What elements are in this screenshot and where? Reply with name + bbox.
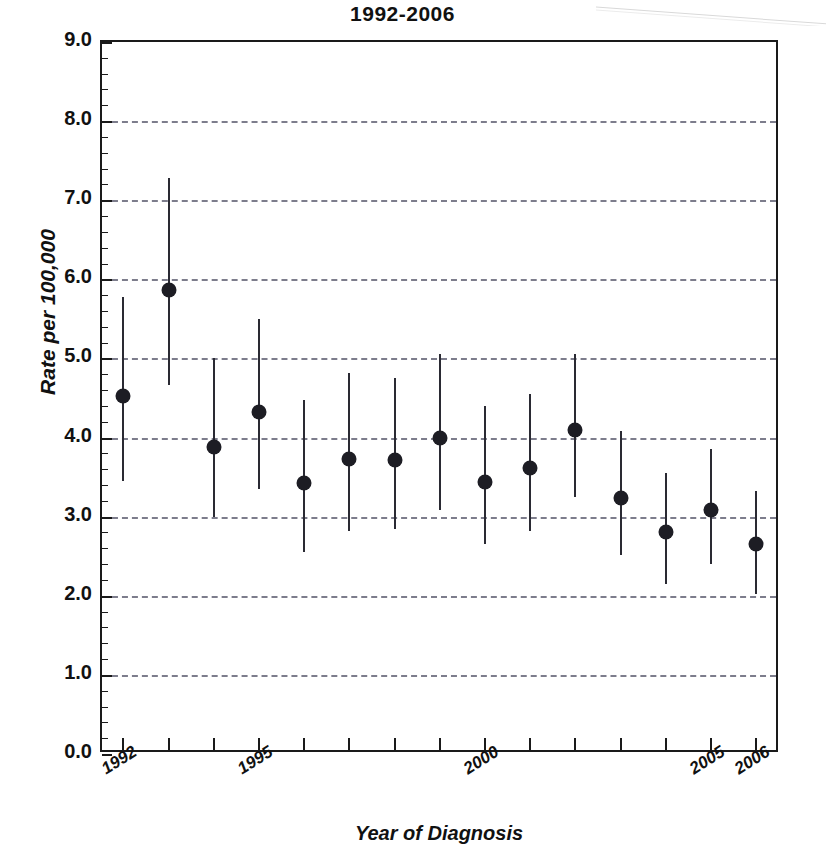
error-bar [213, 358, 215, 516]
y-minor-tick [102, 580, 108, 581]
y-minor-tick [102, 659, 108, 660]
data-point-marker[interactable] [658, 525, 673, 540]
y-minor-tick [102, 390, 108, 391]
x-tick-mark [348, 738, 350, 751]
y-minor-tick [102, 548, 108, 549]
y-minor-tick [102, 406, 108, 407]
data-point-marker[interactable] [613, 490, 628, 505]
y-minor-tick [102, 627, 108, 628]
x-tick-mark [574, 738, 576, 751]
y-minor-tick [102, 643, 108, 644]
y-minor-tick [102, 264, 108, 265]
y-minor-tick [102, 453, 108, 454]
x-tick-mark [665, 738, 667, 751]
y-tick-label: 8.0 [32, 107, 92, 130]
y-minor-tick [102, 722, 108, 723]
x-tick-mark [439, 738, 441, 751]
x-axis-title: Year of Diagnosis [100, 822, 778, 845]
y-minor-tick [102, 216, 108, 217]
x-tick-mark [213, 738, 215, 751]
y-minor-tick [102, 184, 108, 185]
y-tick-mark [102, 42, 112, 44]
data-point-marker[interactable] [477, 474, 492, 489]
gridline [102, 200, 776, 202]
y-minor-tick [102, 89, 108, 90]
y-tick-mark [102, 675, 112, 677]
data-point-marker[interactable] [116, 389, 131, 404]
y-tick-label: 3.0 [32, 503, 92, 526]
y-minor-tick [102, 74, 108, 75]
y-minor-tick [102, 153, 108, 154]
y-minor-tick [102, 327, 108, 328]
y-tick-mark [102, 438, 112, 440]
y-minor-tick [102, 738, 108, 739]
y-minor-tick [102, 422, 108, 423]
data-point-marker[interactable] [387, 452, 402, 467]
gridline [102, 121, 776, 123]
y-minor-tick [102, 311, 108, 312]
x-tick-mark [529, 738, 531, 751]
y-tick-mark [102, 279, 112, 281]
y-minor-tick [102, 248, 108, 249]
y-minor-tick [102, 232, 108, 233]
plot-area [100, 40, 778, 752]
y-tick-mark [102, 596, 112, 598]
y-tick-label: 9.0 [32, 28, 92, 51]
y-minor-tick [102, 295, 108, 296]
data-point-marker[interactable] [432, 430, 447, 445]
y-minor-tick [102, 137, 108, 138]
chart-title: 1992-2006 [0, 2, 805, 26]
y-tick-mark [102, 121, 112, 123]
y-tick-mark [102, 358, 112, 360]
y-minor-tick [102, 532, 108, 533]
x-tick-mark [394, 738, 396, 751]
y-minor-tick [102, 105, 108, 106]
y-minor-tick [102, 501, 108, 502]
y-tick-label: 1.0 [32, 661, 92, 684]
gridline [102, 596, 776, 598]
y-minor-tick [102, 343, 108, 344]
y-minor-tick [102, 485, 108, 486]
y-tick-mark [102, 517, 112, 519]
data-point-marker[interactable] [749, 537, 764, 552]
y-minor-tick [102, 612, 108, 613]
y-minor-tick [102, 169, 108, 170]
y-minor-tick [102, 58, 108, 59]
data-point-marker[interactable] [161, 283, 176, 298]
data-point-marker[interactable] [297, 475, 312, 490]
y-axis-title: Rate per 100,000 [36, 182, 60, 442]
y-tick-label: 2.0 [32, 582, 92, 605]
y-tick-label: 0.0 [32, 740, 92, 763]
gridline [102, 675, 776, 677]
y-minor-tick [102, 469, 108, 470]
x-tick-mark [620, 738, 622, 751]
x-tick-mark [168, 738, 170, 751]
data-point-marker[interactable] [523, 460, 538, 475]
data-point-marker[interactable] [342, 451, 357, 466]
y-minor-tick [102, 691, 108, 692]
data-point-marker[interactable] [703, 502, 718, 517]
data-point-marker[interactable] [251, 405, 266, 420]
data-point-marker[interactable] [568, 423, 583, 438]
data-point-marker[interactable] [206, 440, 221, 455]
y-tick-mark [102, 200, 112, 202]
y-minor-tick [102, 374, 108, 375]
y-minor-tick [102, 564, 108, 565]
y-minor-tick [102, 707, 108, 708]
error-bar [168, 178, 170, 384]
x-tick-mark [303, 738, 305, 751]
gridline [102, 279, 776, 281]
gridline [102, 517, 776, 519]
